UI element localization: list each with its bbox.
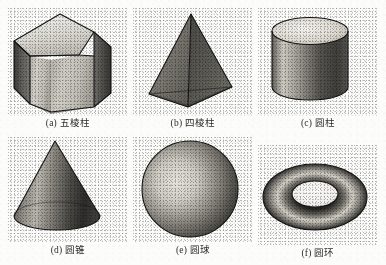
- caption-cone: (d) 圆锥: [8, 245, 128, 256]
- caption-pentagonal-prism: (a) 五棱柱: [8, 118, 128, 129]
- figure-sheet: (a) 五棱柱: [0, 0, 386, 265]
- solid-cell-sphere: (e) 圆球: [133, 137, 253, 262]
- solid-cell-cylinder: (c) 圆柱: [258, 8, 378, 133]
- caption-torus: (f) 圆环: [258, 248, 378, 259]
- caption-cylinder: (c) 圆柱: [258, 118, 378, 129]
- pentagonal-prism-figure: [8, 8, 128, 116]
- square-pyramid-figure: [133, 8, 253, 116]
- solid-cell-torus: (f) 圆环: [258, 145, 378, 262]
- cylinder-figure: [258, 8, 378, 116]
- solid-cell-cone: (d) 圆锥: [8, 137, 128, 262]
- solid-cell-square-pyramid: (b) 四棱柱: [133, 8, 253, 133]
- caption-square-pyramid: (b) 四棱柱: [133, 118, 253, 129]
- solid-cell-pentagonal-prism: (a) 五棱柱: [8, 8, 128, 133]
- torus-figure: [258, 145, 378, 245]
- sphere-figure: [133, 137, 253, 242]
- caption-sphere: (e) 圆球: [133, 245, 253, 256]
- cone-figure: [8, 137, 128, 242]
